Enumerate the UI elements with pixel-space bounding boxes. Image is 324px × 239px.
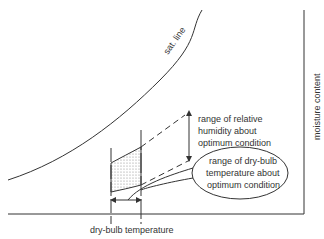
rh-label-line1: range of relative <box>198 114 263 124</box>
diagram: sat. line moisture content dry-bulb temp… <box>0 0 324 239</box>
rh-arrow-up-icon <box>186 110 192 116</box>
rh-label-line3: optimum condition <box>198 138 271 148</box>
optimum-zone <box>111 147 141 192</box>
db-label-line2: temperature about <box>206 168 280 178</box>
rh-label-line2: humidity about <box>198 126 257 136</box>
lower-rh-curve <box>141 160 190 185</box>
y-axis-label: moisture content <box>312 73 322 140</box>
db-label-line3: optimum condition <box>207 180 280 190</box>
x-axis-label: dry-bulb temperature <box>90 225 174 235</box>
upper-rh-curve <box>141 115 185 147</box>
db-label-line1: range of dry-bulb <box>209 156 277 166</box>
sat-line-label: sat. line <box>161 25 187 56</box>
